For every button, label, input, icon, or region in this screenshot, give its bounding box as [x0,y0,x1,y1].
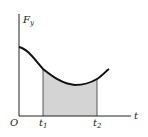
t1-label: t1 [39,117,48,130]
force-time-diagram: Fy t O t1 t2 [0,0,148,137]
origin-label: O [10,117,18,128]
x-axis-label: t [134,110,139,121]
force-curve [19,47,109,85]
t2-label: t2 [93,117,102,130]
y-axis-label: Fy [22,14,35,27]
